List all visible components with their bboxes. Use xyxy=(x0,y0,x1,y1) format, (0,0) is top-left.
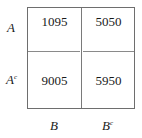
row-divider-right xyxy=(83,51,134,52)
col-label-b-complement: Bc xyxy=(102,118,113,134)
contingency-table: 1095 5050 9005 5950 xyxy=(27,7,135,109)
row-label-a-text: A xyxy=(7,20,15,35)
col-label-b: B xyxy=(50,118,58,134)
row-label-a-complement-base: A xyxy=(6,72,14,87)
cell-ac-bc: 5950 xyxy=(82,73,135,89)
row-label-a-complement: Ac xyxy=(6,72,17,88)
col-label-b-complement-base: B xyxy=(102,118,110,133)
cell-ac-b: 9005 xyxy=(28,73,81,89)
cell-a-b: 1095 xyxy=(28,14,81,30)
row-label-a: A xyxy=(7,20,15,36)
cell-a-bc: 5050 xyxy=(82,14,135,30)
row-label-a-complement-sup: c xyxy=(14,73,17,81)
col-label-b-text: B xyxy=(50,118,58,133)
row-divider-left xyxy=(28,51,80,52)
col-label-b-complement-sup: c xyxy=(110,119,113,127)
